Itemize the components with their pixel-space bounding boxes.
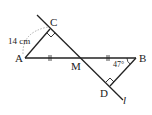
label-A: A [15,52,23,64]
label-M: M [71,60,81,72]
label-C: C [50,16,57,28]
geometry-diagram: A B C D M l 14 cm 47° [0,0,152,115]
label-line-l: l [123,94,126,106]
right-angle-C [47,33,55,37]
angle-label: 47° [113,60,124,69]
angle-arc-B [127,58,130,64]
right-angle-D [106,78,114,82]
label-B: B [139,52,146,64]
length-label: 14 cm [8,36,30,46]
label-D: D [100,87,108,99]
